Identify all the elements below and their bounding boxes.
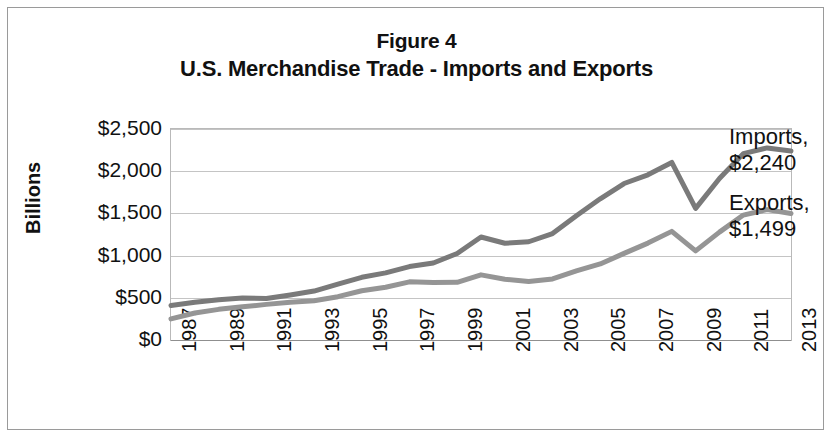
title-line-1: Figure 4 [0,28,833,54]
x-axis-line [171,340,791,341]
y-tick-label: $500 [34,285,162,309]
y-tick-label: $0 [34,327,162,351]
figure-title: Figure 4 U.S. Merchandise Trade - Import… [0,28,833,84]
series-line-imports [171,148,791,305]
exports-data-label: Exports, $1,499 [729,190,810,242]
imports-label-name: Imports, [729,124,808,150]
y-tick-label: $2,000 [34,158,162,182]
series-lines [171,129,791,340]
figure-container: Figure 4 U.S. Merchandise Trade - Import… [0,0,833,438]
y-tick-label: $1,500 [34,200,162,224]
imports-label-value: $2,240 [729,150,808,176]
y-tick-label: $1,000 [34,243,162,267]
x-tick-label: 2013 [798,308,821,353]
imports-data-label: Imports, $2,240 [729,124,808,176]
plot-area [170,128,792,341]
exports-label-value: $1,499 [729,216,810,242]
y-tick-label: $2,500 [34,116,162,140]
series-line-exports [171,210,791,319]
title-line-2: U.S. Merchandise Trade - Imports and Exp… [0,54,833,84]
exports-label-name: Exports, [729,190,810,216]
